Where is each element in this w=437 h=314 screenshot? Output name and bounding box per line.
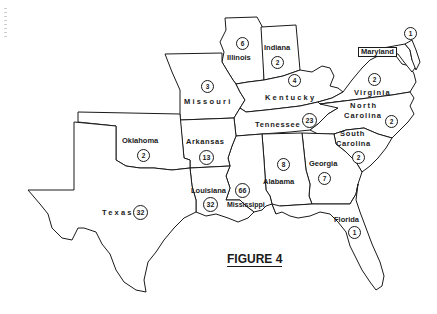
label-louisiana: Louisiana — [191, 187, 226, 195]
count-tennessee: 23 — [302, 113, 317, 128]
label-south-carolina-line2: Carolina — [336, 140, 371, 148]
count-texas: 32 — [133, 205, 148, 220]
label-oklahoma: Oklahoma — [122, 137, 158, 145]
count-louisiana: 32 — [203, 197, 218, 212]
count-north-carolina: 2 — [385, 115, 398, 128]
count-oklahoma: 2 — [137, 149, 150, 162]
count-kentucky: 4 — [288, 74, 301, 87]
label-maryland: Maryland — [358, 47, 397, 57]
label-indiana: Indiana — [264, 44, 290, 52]
count-alabama: 8 — [277, 158, 290, 171]
figure-caption: FIGURE 4 — [227, 253, 282, 267]
count-florida: 1 — [348, 226, 361, 239]
count-south-carolina: 2 — [352, 151, 365, 164]
label-missouri: Missouri — [184, 98, 232, 106]
count-illinois: 6 — [236, 37, 249, 50]
label-mississippi: Mississippi — [227, 201, 265, 208]
label-florida: Florida — [334, 216, 359, 224]
count-georgia: 7 — [318, 172, 331, 185]
count-virginia: 2 — [368, 73, 381, 86]
label-alabama: Alabama — [263, 178, 294, 186]
label-virginia: Virginia — [354, 89, 391, 97]
label-texas: Texas — [102, 209, 134, 217]
label-arkansas: Arkansas — [186, 138, 225, 146]
label-north-carolina-line2: Carolina — [344, 112, 382, 120]
label-south-carolina-line1: South — [340, 130, 365, 138]
label-tennessee: Tennessee — [255, 121, 300, 129]
label-north-carolina-line1: North — [350, 102, 378, 110]
count-maryland: 1 — [404, 27, 417, 40]
count-arkansas: 13 — [199, 150, 214, 165]
label-illinois: Illinois — [227, 54, 251, 62]
label-kentucky: Kentucky — [265, 94, 316, 102]
count-missouri: 3 — [201, 80, 214, 93]
label-georgia: Georgia — [309, 160, 337, 168]
count-indiana: 2 — [271, 56, 284, 69]
count-mississippi: 66 — [235, 183, 250, 198]
